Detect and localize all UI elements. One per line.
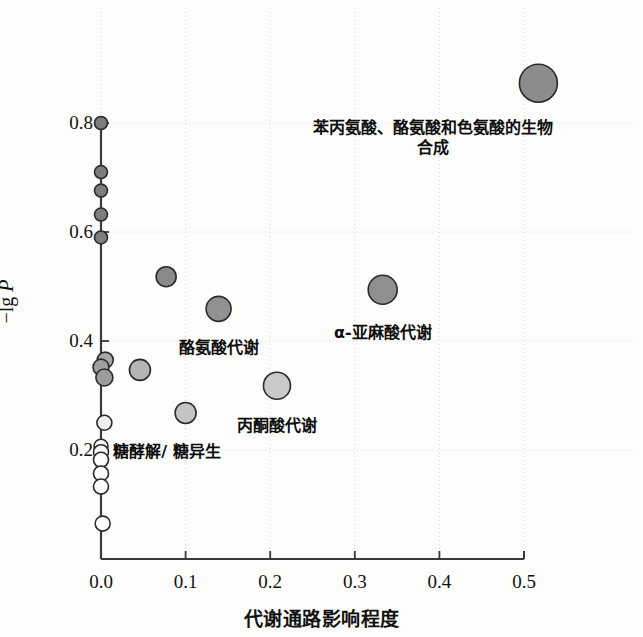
data-point bbox=[175, 402, 196, 423]
point-annotation-label: 苯丙氨酸、酪氨酸和色氨酸的生物合成 bbox=[308, 118, 558, 158]
y-tick-label: 0.4 bbox=[53, 330, 93, 352]
data-point bbox=[129, 359, 150, 380]
x-tick-label: 0.5 bbox=[512, 571, 536, 593]
data-point bbox=[94, 479, 109, 494]
data-point bbox=[263, 372, 290, 399]
data-point bbox=[96, 369, 113, 386]
data-point bbox=[519, 64, 557, 102]
data-point bbox=[95, 231, 108, 244]
data-point bbox=[95, 166, 108, 179]
point-annotation-label: 糖酵解/ 糖异生 bbox=[113, 442, 220, 462]
y-tick-label: 0.8 bbox=[53, 112, 93, 134]
y-axis-title-variable: P bbox=[0, 279, 17, 291]
data-point bbox=[95, 184, 108, 197]
data-point bbox=[156, 267, 176, 287]
y-tick-label: 0.6 bbox=[53, 221, 93, 243]
plot-canvas bbox=[0, 0, 643, 637]
x-tick-label: 0.1 bbox=[174, 571, 198, 593]
data-point bbox=[97, 415, 112, 430]
data-point bbox=[95, 208, 108, 221]
x-tick-label: 0.2 bbox=[258, 571, 282, 593]
x-tick-label: 0.3 bbox=[343, 571, 367, 593]
point-annotation-label: 酪氨酸代谢 bbox=[179, 338, 259, 358]
point-annotation-label: α-亚麻酸代谢 bbox=[334, 323, 432, 343]
y-axis-title: −lg P bbox=[0, 279, 18, 323]
scatter-plot-figure: 0.00.10.20.30.40.50.20.40.60.8 苯丙氨酸、酪氨酸和… bbox=[0, 0, 643, 637]
x-tick-label: 0.0 bbox=[89, 571, 113, 593]
data-point bbox=[95, 117, 108, 130]
point-annotation-label: 丙酮酸代谢 bbox=[237, 416, 317, 436]
x-axis-title: 代谢通路影响程度 bbox=[0, 604, 643, 631]
data-point bbox=[94, 452, 109, 467]
y-tick-label: 0.2 bbox=[53, 439, 93, 461]
data-point bbox=[95, 516, 110, 531]
data-point bbox=[368, 275, 397, 304]
x-tick-label: 0.4 bbox=[428, 571, 452, 593]
data-point bbox=[206, 296, 231, 321]
axis-lines-group bbox=[101, 123, 524, 559]
